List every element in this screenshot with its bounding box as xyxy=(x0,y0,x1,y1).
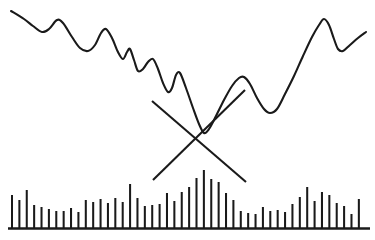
price-line xyxy=(11,11,366,133)
chart-canvas xyxy=(0,0,375,240)
uptrend-line xyxy=(153,90,245,180)
downtrend-line xyxy=(152,101,246,182)
chart-figure xyxy=(0,0,375,240)
volume-bars-group xyxy=(12,170,359,228)
